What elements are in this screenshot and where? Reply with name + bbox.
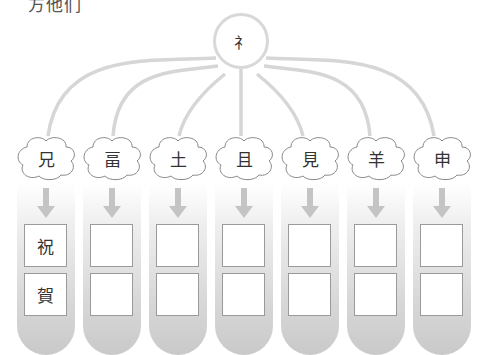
component-char: 兄 <box>15 146 77 171</box>
arrow-down-icon <box>36 188 56 218</box>
answer-box[interactable] <box>420 224 463 267</box>
answer-box[interactable] <box>354 273 397 316</box>
cloud-component-5: 見 <box>279 133 341 181</box>
answer-box[interactable]: 祝 <box>24 224 67 267</box>
answer-box[interactable] <box>156 273 199 316</box>
arrow-down-icon <box>234 188 254 218</box>
answer-box[interactable] <box>222 273 265 316</box>
arrow-down-icon <box>102 188 122 218</box>
answer-box[interactable] <box>288 224 331 267</box>
component-char: 且 <box>213 146 275 171</box>
answer-box[interactable]: 賀 <box>24 273 67 316</box>
arrow-down-icon <box>432 188 452 218</box>
answer-box[interactable] <box>288 273 331 316</box>
answer-box[interactable] <box>156 224 199 267</box>
component-char: 畐 <box>81 146 143 171</box>
cloud-component-4: 且 <box>213 133 275 181</box>
cloud-component-7: 申 <box>411 133 473 181</box>
cloud-component-1: 兄 <box>15 133 77 181</box>
answer-box[interactable] <box>90 273 133 316</box>
arrow-down-icon <box>300 188 320 218</box>
cloud-component-6: 羊 <box>345 133 407 181</box>
answer-box[interactable] <box>354 224 397 267</box>
radical-hub: 礻 <box>213 13 269 69</box>
component-char: 見 <box>279 146 341 171</box>
arrow-down-icon <box>168 188 188 218</box>
answer-box[interactable] <box>222 224 265 267</box>
arrow-down-icon <box>366 188 386 218</box>
cloud-component-2: 畐 <box>81 133 143 181</box>
cloud-component-3: 土 <box>147 133 209 181</box>
component-char: 土 <box>147 146 209 171</box>
component-char: 申 <box>411 146 473 171</box>
answer-box[interactable] <box>90 224 133 267</box>
component-char: 羊 <box>345 146 407 171</box>
answer-box[interactable] <box>420 273 463 316</box>
